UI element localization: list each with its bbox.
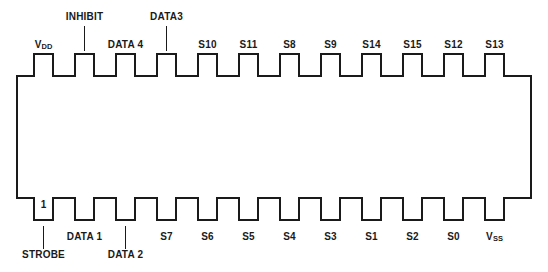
pin-data-2 <box>115 197 136 221</box>
pin-s15 <box>402 53 423 77</box>
leader-line-strobe <box>43 226 44 249</box>
pin-s1 <box>361 197 382 221</box>
pin-s7 <box>156 197 177 221</box>
pin-label-inhibit: INHIBIT <box>50 11 119 22</box>
pin-label-vdd: VDD <box>9 39 78 51</box>
pin-vdd <box>33 53 54 77</box>
pin-label-s13: S13 <box>460 39 529 50</box>
pin-vss <box>484 197 505 221</box>
pin-s9 <box>320 53 341 77</box>
pin-label-data-4: DATA 4 <box>91 39 160 50</box>
pin-s11 <box>238 53 259 77</box>
pin-s3 <box>320 197 341 221</box>
pin-s4 <box>279 197 300 221</box>
package-body <box>16 75 532 199</box>
pin-s0 <box>443 197 464 221</box>
pin-s8 <box>279 53 300 77</box>
pin-label-vss: VSS <box>460 231 529 243</box>
leader-line-inhibit <box>84 26 85 51</box>
pin-s13 <box>484 53 505 77</box>
pin-s12 <box>443 53 464 77</box>
pin-s14 <box>361 53 382 77</box>
pin-number-marker: 1 <box>35 199 52 210</box>
pin-data-1 <box>74 197 95 221</box>
leader-line-data3 <box>166 26 167 51</box>
pin-s6 <box>197 197 218 221</box>
pin-label-data-2: DATA 2 <box>91 249 160 260</box>
pin-label-data3: DATA3 <box>132 11 201 22</box>
pin-s10 <box>197 53 218 77</box>
pin-strobe: 1 <box>33 197 54 221</box>
pin-label-data-1: DATA 1 <box>50 231 119 242</box>
pin-s5 <box>238 197 259 221</box>
pin-data-4 <box>115 53 136 77</box>
dip-package-pinout-diagram: VDDINHIBITDATA 4DATA3S10S11S8S9S14S15S12… <box>0 0 548 272</box>
pin-inhibit <box>74 53 95 77</box>
pin-data3 <box>156 53 177 77</box>
pin-s2 <box>402 197 423 221</box>
leader-line-data-2 <box>125 226 126 249</box>
pin-label-strobe: STROBE <box>9 249 78 260</box>
